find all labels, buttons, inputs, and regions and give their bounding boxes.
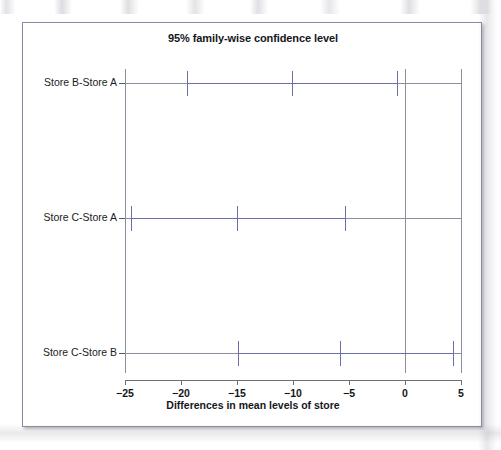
confidence-interval-row: Store C-Store B <box>125 339 461 369</box>
scan-noise-band <box>0 0 501 14</box>
y-axis-tick <box>119 218 125 219</box>
confidence-interval-row: Store B-Store A <box>125 69 461 99</box>
x-axis-tick <box>405 380 406 385</box>
x-axis-tick-label: 0 <box>385 387 425 399</box>
interval-upper-cap <box>397 71 398 96</box>
panel-right-boundary <box>461 69 462 373</box>
x-axis: −25−20−15−10−505 <box>125 380 461 381</box>
interval-upper-cap <box>345 206 346 231</box>
plot-area: Store B-Store AStore C-Store AStore C-St… <box>125 43 461 373</box>
y-axis-tick-label: Store C-Store A <box>0 211 117 223</box>
x-axis-tick-label: −15 <box>217 387 257 399</box>
y-axis-tick <box>119 83 125 84</box>
interval-center-mark <box>292 71 293 96</box>
y-axis-tick-label: Store B-Store A <box>0 76 117 88</box>
x-axis-tick <box>237 380 238 385</box>
x-axis-tick <box>125 380 126 385</box>
interval-center-mark <box>237 206 238 231</box>
x-axis-tick-label: 5 <box>441 387 481 399</box>
interval-lower-cap <box>187 71 188 96</box>
x-axis-tick <box>349 380 350 385</box>
x-axis-tick <box>293 380 294 385</box>
x-axis-tick-label: −10 <box>273 387 313 399</box>
y-axis-tick <box>119 353 125 354</box>
x-axis-title: Differences in mean levels of store <box>23 399 483 411</box>
interval-lower-cap <box>238 341 239 366</box>
x-axis-tick-label: −5 <box>329 387 369 399</box>
x-axis-tick-label: −25 <box>105 387 145 399</box>
interval-upper-cap <box>453 341 454 366</box>
x-axis-tick <box>181 380 182 385</box>
figure-frame: 95% family-wise confidence level Store B… <box>22 22 482 427</box>
interval-lower-cap <box>131 206 132 231</box>
confidence-interval-row: Store C-Store A <box>125 204 461 234</box>
x-axis-tick <box>461 380 462 385</box>
interval-center-mark <box>340 341 341 366</box>
x-axis-tick-label: −20 <box>161 387 201 399</box>
interval-bar <box>238 353 453 354</box>
y-axis-tick-label: Store C-Store B <box>0 346 117 358</box>
